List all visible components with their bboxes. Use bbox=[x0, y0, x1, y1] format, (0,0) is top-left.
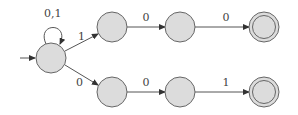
state-q4 bbox=[97, 77, 127, 107]
state-diagram: 0,1 1 0 0 0 0 1 bbox=[0, 0, 298, 115]
state-q1 bbox=[97, 12, 127, 42]
edge-label-q4-q5: 0 bbox=[143, 76, 150, 89]
state-q3-accept bbox=[249, 12, 279, 42]
state-q5 bbox=[165, 77, 195, 107]
state-q6-accept bbox=[249, 77, 279, 107]
edge-label-q0-q1: 1 bbox=[78, 30, 85, 43]
self-loop-edge bbox=[44, 28, 62, 45]
edge-label-q1-q2: 0 bbox=[143, 11, 150, 24]
state-q2 bbox=[165, 12, 195, 42]
edge-label-q0-q4: 0 bbox=[76, 76, 83, 89]
state-start bbox=[36, 43, 66, 73]
self-loop-label: 0,1 bbox=[44, 7, 62, 20]
edge-label-q5-q6: 1 bbox=[223, 76, 230, 89]
edge-label-q2-q3: 0 bbox=[223, 11, 230, 24]
